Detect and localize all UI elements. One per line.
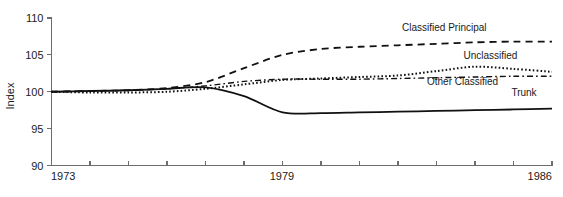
- y-axis-title: Index: [4, 82, 16, 109]
- chart-container: 9095100105110 Index 1973 1979 1986 Class…: [0, 0, 563, 197]
- series-label-trunk: Trunk: [511, 87, 537, 98]
- y-axis-ticks: [47, 18, 52, 166]
- y-tick-label-90: 90: [31, 160, 43, 172]
- y-tick-label-110: 110: [26, 12, 44, 24]
- series-line-trunk: [52, 87, 553, 114]
- x-tick-label-1973: 1973: [51, 170, 75, 182]
- series-labels: Classified PrincipalUnclassifiedOther Cl…: [402, 22, 538, 98]
- y-tick-label-105: 105: [25, 49, 43, 61]
- y-tick-label-100: 100: [25, 86, 43, 98]
- x-tick-label-1979: 1979: [270, 170, 294, 182]
- x-tick-label-1986: 1986: [528, 170, 552, 182]
- x-axis-ticks: [52, 161, 553, 166]
- line-chart: 9095100105110 Index 1973 1979 1986 Class…: [0, 0, 563, 197]
- series-label-other-classified: Other Classified: [427, 76, 498, 87]
- series-label-classified-principal: Classified Principal: [402, 22, 486, 33]
- series-label-unclassified: Unclassified: [463, 50, 517, 61]
- axes: [51, 18, 552, 166]
- y-axis-tick-labels: 9095100105110: [25, 12, 43, 172]
- y-tick-label-95: 95: [31, 123, 43, 135]
